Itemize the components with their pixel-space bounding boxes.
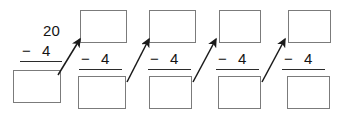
arrow-4-to-5 [262, 39, 285, 82]
subtraction-worksheet: 20 −4 −4 −4 −4 −4 [0, 0, 340, 117]
arrow-layer [0, 0, 340, 117]
arrow-2-to-3 [127, 39, 149, 82]
arrow-3-to-4 [193, 39, 216, 82]
arrow-1-to-2 [58, 39, 80, 75]
